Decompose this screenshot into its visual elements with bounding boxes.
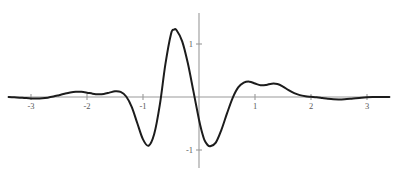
x-tick-label: -2	[83, 101, 90, 111]
axes-group	[8, 13, 390, 168]
y-tick-label: 1	[189, 39, 193, 49]
x-tick-label: -1	[139, 101, 146, 111]
x-tick-label: 2	[309, 101, 313, 111]
y-tick-label: -1	[186, 145, 193, 155]
x-tick-label: 1	[253, 101, 257, 111]
plot-figure: -3-2-1123 1-1	[0, 0, 398, 174]
x-tick-label: 3	[365, 101, 369, 111]
x-tick-label: -3	[27, 101, 34, 111]
plot-canvas: -3-2-1123 1-1	[0, 0, 398, 174]
